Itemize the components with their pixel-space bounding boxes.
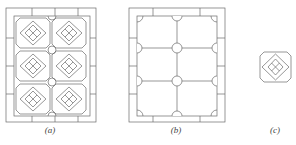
panel-a-label: (a) [45, 125, 56, 135]
panel-b-label: (b) [171, 125, 182, 135]
panel-a-drawing [6, 8, 96, 122]
panel-c-drawing [260, 52, 291, 82]
figure-canvas [0, 0, 296, 145]
panel-b-drawing [129, 8, 225, 122]
panel-c-label: (c) [270, 125, 280, 135]
